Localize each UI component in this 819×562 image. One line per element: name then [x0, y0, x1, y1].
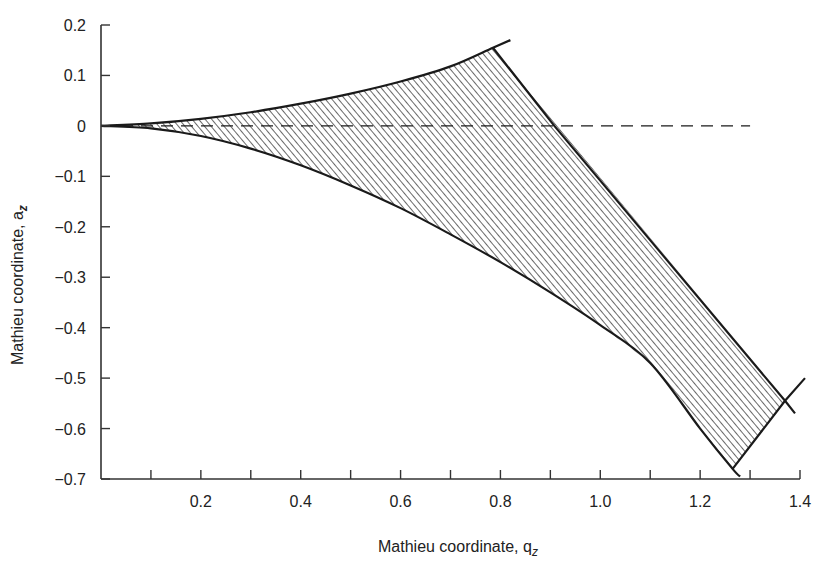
y-tick-label: −0.6: [54, 421, 86, 438]
x-tick-label: 0.6: [389, 493, 411, 510]
x-axis-title-subscript: z: [531, 545, 538, 559]
y-tick-label: −0.2: [54, 219, 86, 236]
stability-diagram-chart: 0.20.10−0.1−0.2−0.3−0.4−0.5−0.6−0.7 0.20…: [0, 0, 819, 562]
y-tick-label: −0.5: [54, 370, 86, 387]
x-tick-label: 0.2: [190, 493, 212, 510]
x-tick-label: 0.4: [290, 493, 312, 510]
y-axis-title: Mathieu coordinate, az: [9, 205, 30, 365]
y-tick-label: −0.4: [54, 320, 86, 337]
x-tick-label: 1.4: [789, 493, 811, 510]
y-tick-label: 0.1: [64, 67, 86, 84]
y-tick-label: 0: [77, 118, 86, 135]
x-tick-label: 1.2: [689, 493, 711, 510]
y-tick-label: −0.3: [54, 269, 86, 286]
x-tick-label: 1.0: [589, 493, 611, 510]
x-axis-title: Mathieu coordinate, qz: [378, 538, 538, 559]
x-axis-ticks: 0.20.40.60.81.01.21.4: [151, 470, 811, 510]
x-tick-label: 0.8: [489, 493, 511, 510]
y-tick-label: 0.2: [64, 17, 86, 34]
y-tick-label: −0.1: [54, 168, 86, 185]
y-tick-label: −0.7: [54, 471, 86, 488]
y-axis-title-subscript: z: [16, 205, 30, 212]
